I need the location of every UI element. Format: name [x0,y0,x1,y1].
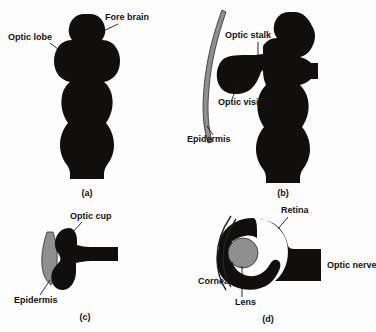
panel-a: Optic lobe Fore brain (a) [8,12,149,198]
panel-c-letter: (c) [80,312,91,322]
optic-cup-leader-line [72,222,82,233]
cornea-label: Cornea [198,276,230,286]
optic-nerve-label: Optic nerve [327,260,376,270]
panel-b-letter: (b) [277,188,289,198]
forebrain-optic-lobe-silhouette [54,14,120,179]
eye-development-figure: Optic lobe Fore brain (a) Optic stalk Op… [0,0,376,332]
panel-a-letter: (a) [82,188,93,198]
epidermis-leader-line-c [40,280,50,295]
optic-stalk-label: Optic stalk [225,30,272,40]
retina-leader-line [278,217,288,229]
retina-label: Retina [281,205,310,215]
epidermis-label-b: Epidermis [187,134,231,144]
fore-brain-label: Fore brain [105,12,149,22]
optic-lobe-label: Optic lobe [8,32,52,42]
optic-cup-silhouette [51,228,118,290]
panel-b: Optic stalk Optic visicle Epidermis (b) [187,10,318,198]
lens-label: Lens [235,297,256,307]
panel-d-letter: (d) [262,314,274,324]
panel-d: Retina Optic nerve Cornea Lens (d) [198,205,376,324]
optic-cup-label: Optic cup [70,211,112,221]
epidermis-label-c: Epidermis [14,295,58,305]
optic-visicle-label: Optic visicle [218,97,271,107]
panel-c: Optic cup Epidermis (c) [14,211,118,322]
